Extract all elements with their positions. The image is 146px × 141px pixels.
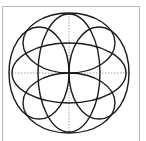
knot-pattern-diagram bbox=[0, 0, 146, 141]
